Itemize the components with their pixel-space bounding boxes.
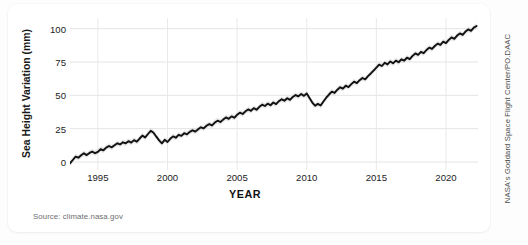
y-tick-0: 0 [40,157,66,168]
uncertainty-band [70,23,477,166]
sea-level-line-chart [70,18,478,170]
x-tick-2015: 2015 [366,172,387,183]
y-axis-label: Sea Height Variation (mm) [14,18,38,168]
x-tick-2020: 2020 [435,172,456,183]
x-tick-2000: 2000 [157,172,178,183]
sea-height-line [70,26,477,163]
chart-page: Sea Height Variation (mm) 0255075100 199… [0,0,528,245]
x-tick-2010: 2010 [296,172,317,183]
x-tick-1995: 1995 [87,172,108,183]
y-tick-75: 75 [40,57,66,68]
y-axis-tick-labels: 0255075100 [38,18,66,170]
gridlines [70,18,478,170]
source-caption: Source: climate.nasa.gov [33,212,123,221]
x-axis-tick-labels: 199520002005201020152020 [70,172,478,188]
y-tick-50: 50 [40,90,66,101]
plot-area [70,18,478,170]
x-tick-2005: 2005 [226,172,247,183]
y-tick-25: 25 [40,123,66,134]
attribution-credit: NASA's Goddard Space Flight Center/PO.DA… [494,4,522,232]
y-tick-100: 100 [40,23,66,34]
x-axis-label: YEAR [0,188,490,200]
